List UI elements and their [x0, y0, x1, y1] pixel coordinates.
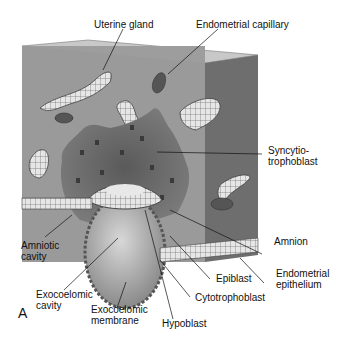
label-amnion: Amnion: [274, 236, 308, 247]
label-exocoelomic-cavity: Exocoelomic cavity: [36, 289, 93, 311]
label-cytotrophoblast: Cytotrophoblast: [195, 292, 265, 303]
panel-letter: A: [18, 306, 27, 320]
amniotic-cavity-shape: [105, 184, 145, 196]
label-syncytiotrophoblast: Syncytio- trophoblast: [268, 145, 317, 167]
label-exocoelomic-membrane: Exocoelomic membrane: [91, 304, 148, 326]
label-endometrial-capillary: Endometrial capillary: [196, 19, 289, 30]
label-amniotic-cavity: Amniotic cavity: [21, 240, 59, 262]
label-endometrial-epithelium: Endometrial epithelium: [276, 268, 329, 290]
label-uterine-gland: Uterine gland: [94, 19, 153, 30]
endometrial-epithelium-left: [22, 198, 92, 209]
exocoelomic-cavity: [85, 196, 165, 308]
label-epiblast: Epiblast: [216, 273, 252, 284]
label-hypoblast: Hypoblast: [162, 318, 206, 329]
